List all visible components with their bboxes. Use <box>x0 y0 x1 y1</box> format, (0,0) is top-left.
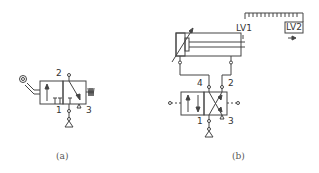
valve-3-2-roller <box>20 74 95 128</box>
limit-valve-label-lv2: LV2 <box>286 23 302 32</box>
line-to-port-4 <box>180 64 209 86</box>
pneumatic-circuit-diagram <box>0 0 319 173</box>
port-label-1-a: 1 <box>56 106 62 115</box>
port-label-2-b: 2 <box>228 79 234 88</box>
limit-valve-label-lv1: LV1 <box>236 24 252 33</box>
caption-a: (a) <box>56 152 68 161</box>
port-label-2-a: 2 <box>56 69 62 78</box>
valve-4-2-pilot <box>169 86 240 138</box>
port-label-3-b: 3 <box>228 117 234 126</box>
port-label-3-a: 3 <box>86 106 92 115</box>
double-acting-cylinder <box>172 28 245 64</box>
port-label-4-b: 4 <box>197 79 203 88</box>
port-label-1-b: 1 <box>197 117 203 126</box>
caption-b: (b) <box>232 152 245 161</box>
